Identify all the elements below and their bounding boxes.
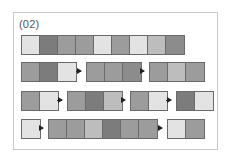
cell-group [21,91,59,111]
cell-mid [112,36,130,54]
cell-group [167,119,205,139]
cell-dark [40,63,58,81]
cell-mid [67,120,85,138]
cell-mid [121,120,139,138]
cell-mid [150,63,168,81]
cell-middark [166,36,184,54]
cell-mid [22,63,40,81]
cell-light [195,92,213,110]
arrow-right-icon [158,128,162,129]
cell-light [130,36,148,54]
cell-light [168,120,186,138]
cell-mid [139,120,157,138]
cell-midlight [148,36,166,54]
cell-group [21,119,41,139]
cell-group [176,91,214,111]
sequence-row [0,119,232,139]
sequence-row [0,35,232,55]
cell-mid [186,63,204,81]
arrow-right-icon [76,71,81,72]
sequence-row [0,62,232,82]
cell-group [21,62,77,82]
cell-light [22,120,40,138]
cell-mid [186,120,204,138]
arrow-right-icon [166,100,171,101]
cell-group [86,62,142,82]
cell-dark [86,92,104,110]
arrow-right-icon [39,128,43,129]
cell-light [58,63,76,81]
arrow-right-icon [140,71,144,72]
cell-midlight [104,92,122,110]
cell-mid [131,92,149,110]
cell-light [94,36,112,54]
cell-mid [22,92,40,110]
cell-group [149,62,205,82]
cell-light [149,92,167,110]
cell-dark [177,92,195,110]
cell-mid [68,92,86,110]
cell-mid [87,63,105,81]
diagram-label: (02) [19,18,39,30]
cell-middark [123,63,141,81]
cell-light [22,36,40,54]
cell-light [40,92,58,110]
cell-dark [40,36,58,54]
cell-group [21,35,185,55]
cell-mid [49,120,67,138]
cell-midlight [168,63,186,81]
arrow-right-icon [121,100,125,101]
arrow-right-icon [57,100,62,101]
cell-mid [58,36,76,54]
cell-midlight [85,120,103,138]
sequence-row [0,91,232,111]
cell-mid [105,63,123,81]
cell-mid [76,36,94,54]
cell-group [67,91,123,111]
cell-dark [103,120,121,138]
cell-group [48,119,158,139]
cell-group [130,91,168,111]
